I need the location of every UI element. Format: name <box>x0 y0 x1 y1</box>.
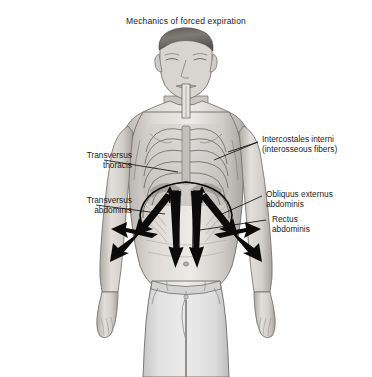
label-line-2: abdominis <box>22 205 132 215</box>
label-line-1: Obliquus externus <box>266 189 333 199</box>
label-line-2: abdominis <box>272 224 310 234</box>
figure-canvas: Mechanics of forced expiration <box>0 0 372 377</box>
label-obliquus-externus-abdominis: Obliquus externus abdominis <box>266 189 333 209</box>
hand-right <box>254 292 275 338</box>
label-line-1: Rectus <box>272 214 310 224</box>
sternum <box>182 126 190 184</box>
label-line-1: Intercostales interni <box>262 134 337 144</box>
label-line-1: Transversus <box>22 195 132 205</box>
label-rectus-abdominis: Rectus abdominis <box>272 214 310 234</box>
label-intercostales-interni: Intercostales interni (interosseous fibe… <box>262 134 337 154</box>
hand-left <box>97 292 118 338</box>
label-transversus-thoracis: Transversus thoracis <box>28 150 132 170</box>
label-line-1: Transversus <box>28 150 132 160</box>
mouthpiece-tube <box>182 84 190 118</box>
label-line-2: thoracis <box>28 160 132 170</box>
label-transversus-abdominis: Transversus abdominis <box>22 195 132 215</box>
navel <box>183 262 188 266</box>
label-line-2: (interosseous fibers) <box>262 144 337 154</box>
trouser-button <box>184 295 188 299</box>
label-line-2: abdominis <box>266 199 333 209</box>
